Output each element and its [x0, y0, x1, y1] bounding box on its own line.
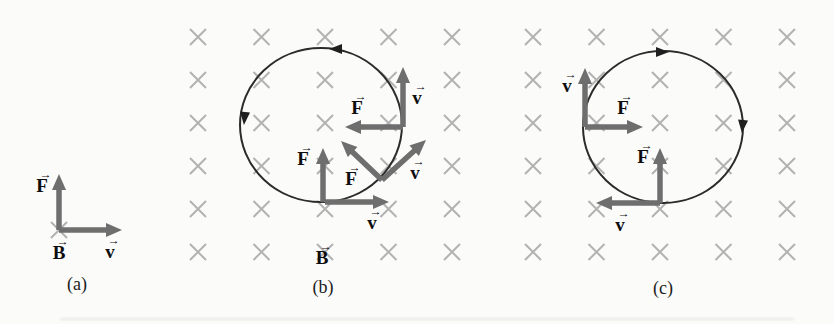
field-into-page-cross-icon	[254, 201, 270, 217]
field-into-page-cross-icon	[317, 29, 333, 45]
motion-direction-arrowhead	[737, 120, 748, 134]
panel-caption-c: (c)	[653, 278, 673, 299]
field-into-page-cross-icon	[525, 158, 541, 174]
field-into-page-cross-icon	[716, 158, 732, 174]
field-into-page-cross-icon	[254, 115, 270, 131]
panel-caption-b: (b)	[313, 277, 334, 298]
field-into-page-cross-icon	[716, 201, 732, 217]
field-into-page-cross-icon	[779, 244, 795, 260]
field-into-page-cross-icon	[525, 29, 541, 45]
motion-direction-arrowhead	[329, 44, 342, 54]
vector-over-arrow-icon: →	[413, 157, 424, 164]
scan-artifact-line	[60, 318, 794, 320]
velocity-vector-arrow	[396, 67, 410, 127]
field-into-page-cross-icon	[190, 201, 206, 217]
panel-b-diagram	[190, 29, 460, 260]
vector-over-arrow-icon: →	[300, 143, 311, 150]
force-vector-arrow	[653, 148, 667, 203]
force-vector-label: →F	[637, 140, 649, 166]
magnetic-field-label: →B	[53, 236, 66, 262]
field-into-page-cross-icon	[652, 115, 668, 131]
field-into-page-cross-icon	[589, 244, 605, 260]
field-into-page-cross-icon	[716, 244, 732, 260]
field-into-page-cross-icon	[190, 244, 206, 260]
physics-figure: →F→v→B→v→F→F→v→v→F→B→v→F→F→v (a) (b) (c)	[0, 0, 834, 324]
vector-over-arrow-icon: →	[39, 170, 50, 177]
force-vector-label: →F	[617, 91, 629, 117]
field-into-page-cross-icon	[779, 115, 795, 131]
force-vector-label: →F	[345, 162, 357, 188]
field-into-page-cross-icon	[779, 72, 795, 88]
force-vector-arrow	[316, 148, 330, 202]
field-into-page-cross-icon	[589, 29, 605, 45]
field-into-page-cross-icon	[652, 29, 668, 45]
field-into-page-cross-icon	[444, 244, 460, 260]
force-vector-label: →F	[36, 169, 48, 195]
force-vector-arrow	[585, 120, 643, 134]
vector-over-arrow-icon: →	[620, 92, 631, 99]
field-into-page-cross-icon	[190, 29, 206, 45]
field-into-page-cross-icon	[716, 29, 732, 45]
field-into-page-cross-icon	[317, 72, 333, 88]
field-into-page-cross-icon	[190, 115, 206, 131]
field-into-page-cross-icon	[652, 244, 668, 260]
field-into-page-cross-icon	[525, 201, 541, 217]
field-into-page-cross-icon	[254, 244, 270, 260]
velocity-vector-label: →v	[615, 208, 626, 234]
field-into-page-cross-icon	[381, 29, 397, 45]
velocity-vector-label: →v	[412, 81, 423, 107]
field-into-page-cross-icon	[525, 72, 541, 88]
field-into-page-cross-icon	[444, 29, 460, 45]
field-into-page-cross-icon	[779, 201, 795, 217]
vector-over-arrow-icon: →	[57, 237, 68, 244]
panel-c-diagram	[525, 29, 795, 260]
force-vector-label: →F	[351, 91, 363, 117]
vector-over-arrow-icon: →	[354, 92, 365, 99]
field-into-page-cross-icon	[779, 29, 795, 45]
field-into-page-cross-icon	[652, 72, 668, 88]
force-vector-arrow	[345, 120, 403, 134]
vector-over-arrow-icon: →	[618, 209, 629, 216]
panel-caption-a: (a)	[67, 274, 87, 295]
field-into-page-cross-icon	[779, 158, 795, 174]
velocity-vector-label: →v	[367, 206, 378, 232]
field-into-page-cross-icon	[716, 115, 732, 131]
panel-a-diagram	[51, 174, 122, 238]
field-into-page-cross-icon	[525, 115, 541, 131]
vector-over-arrow-icon: →	[370, 207, 381, 214]
vector-over-arrow-icon: →	[565, 70, 576, 77]
vector-over-arrow-icon: →	[108, 236, 119, 243]
vector-over-arrow-icon: →	[415, 82, 426, 89]
force-vector-label: →F	[297, 142, 309, 168]
velocity-vector-label: →v	[562, 69, 573, 95]
vector-over-arrow-icon: →	[320, 242, 331, 249]
magnetic-field-label: →B	[316, 241, 329, 267]
field-into-page-cross-icon	[444, 201, 460, 217]
field-into-page-cross-icon	[444, 72, 460, 88]
field-into-page-cross-icon	[381, 244, 397, 260]
velocity-vector-label: →v	[410, 156, 421, 182]
field-into-page-cross-icon	[254, 29, 270, 45]
velocity-vector-label: →v	[105, 235, 116, 261]
force-vector-arrow	[52, 174, 66, 230]
field-into-page-cross-icon	[190, 72, 206, 88]
field-into-page-cross-icon	[444, 115, 460, 131]
motion-direction-arrowhead	[656, 47, 669, 57]
field-into-page-cross-icon	[190, 158, 206, 174]
vector-over-arrow-icon: →	[348, 163, 359, 170]
field-into-page-cross-icon	[525, 244, 541, 260]
field-into-page-cross-icon	[444, 158, 460, 174]
vector-over-arrow-icon: →	[640, 141, 651, 148]
field-into-page-cross-icon	[317, 115, 333, 131]
